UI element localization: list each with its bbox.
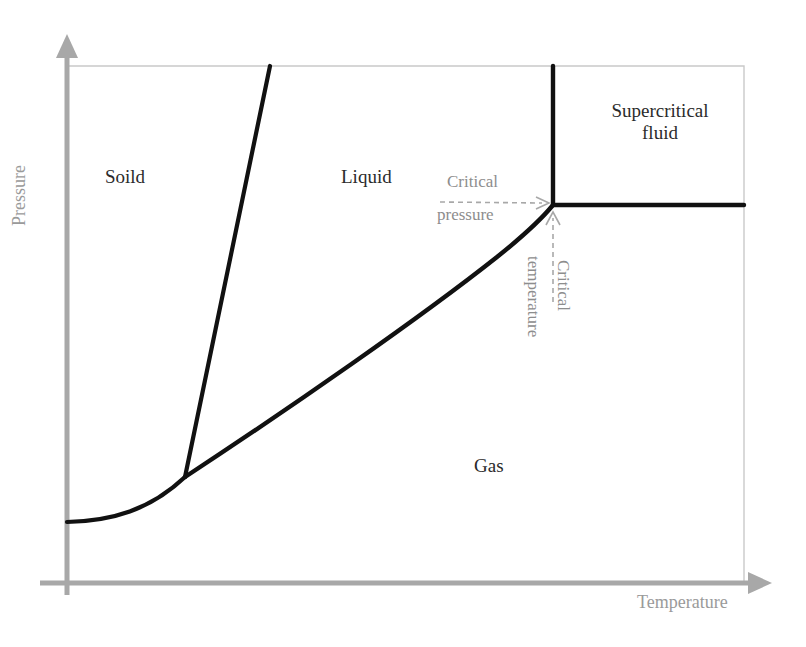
vaporization-curve bbox=[185, 205, 553, 477]
region-label-gas: Gas bbox=[474, 455, 504, 477]
region-label-liquid: Liquid bbox=[341, 166, 392, 188]
x-axis-arrowhead bbox=[748, 572, 772, 594]
x-axis-label-temperature: Temperature bbox=[637, 592, 728, 613]
region-label-supercritical-fluid: Supercritical fluid bbox=[585, 100, 735, 145]
supercritical-line-2: fluid bbox=[585, 122, 735, 144]
supercritical-line-1: Supercritical bbox=[585, 100, 735, 122]
annotation-critical-pressure-line1: Critical bbox=[447, 172, 498, 192]
sublimation-curve bbox=[67, 477, 185, 522]
fusion-curve bbox=[185, 66, 270, 477]
y-axis-label-pressure: Pressure bbox=[9, 165, 30, 226]
y-axis-arrowhead bbox=[56, 34, 78, 58]
annotation-critical-temperature-word2: temperature bbox=[523, 256, 543, 337]
phase-diagram-canvas bbox=[0, 0, 806, 647]
annotation-critical-pressure-line2: pressure bbox=[437, 205, 494, 225]
phase-diagram-figure: Soild Liquid Gas Supercritical fluid Pre… bbox=[0, 0, 806, 647]
annotation-critical-temperature-word1: Critical bbox=[553, 260, 573, 311]
region-label-solid: Soild bbox=[105, 166, 145, 188]
